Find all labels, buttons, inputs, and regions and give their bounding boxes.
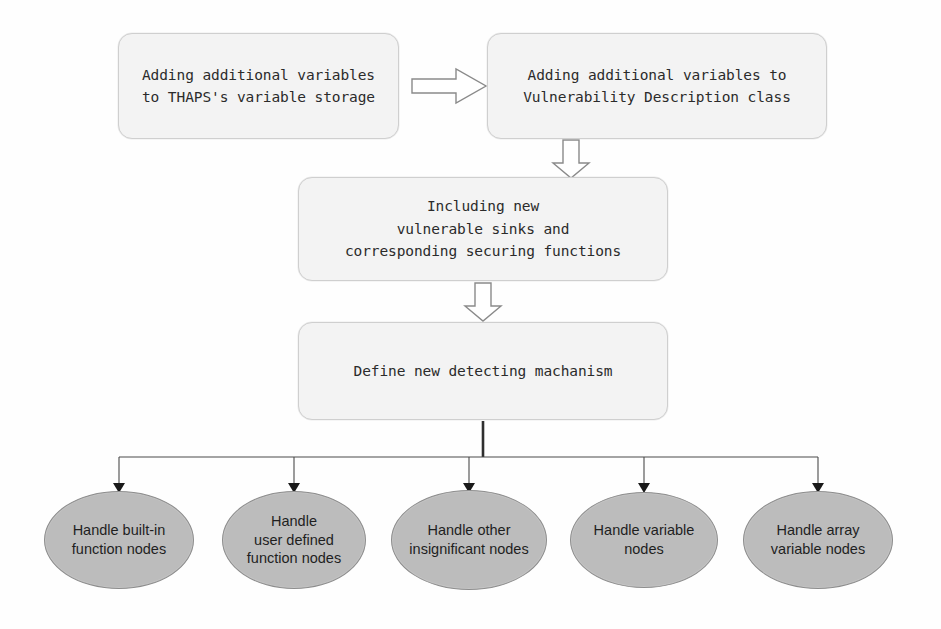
process-node-add-vars-vuln-desc[interactable]: Adding additional variables to Vulnerabi… bbox=[487, 33, 827, 139]
terminator-node-label: Handle built-in function nodes bbox=[72, 521, 166, 558]
terminator-node-handle-array-variable-nodes[interactable]: Handle array variable nodes bbox=[743, 491, 893, 589]
terminator-node-handle-variable-nodes[interactable]: Handle variable nodes bbox=[570, 492, 718, 588]
arrow-box2-to-box3-icon bbox=[553, 140, 589, 178]
process-node-label: Adding additional variables to Vulnerabi… bbox=[523, 64, 791, 109]
process-node-define-mechanism[interactable]: Define new detecting machanism bbox=[298, 322, 668, 420]
process-node-including-new-sinks[interactable]: Including new vulnerable sinks and corre… bbox=[298, 177, 668, 281]
terminator-node-handle-user-defined-function-nodes[interactable]: Handle user defined function nodes bbox=[222, 491, 366, 589]
arrow-box3-to-box4-icon bbox=[465, 283, 501, 321]
process-node-label: Adding additional variables to THAPS's v… bbox=[142, 64, 375, 109]
terminator-node-label: Handle array variable nodes bbox=[771, 521, 865, 558]
terminator-node-handle-builtin-function-nodes[interactable]: Handle built-in function nodes bbox=[44, 491, 194, 589]
terminator-node-label: Handle user defined function nodes bbox=[247, 512, 341, 568]
terminator-node-handle-other-insignificant-nodes[interactable]: Handle other insignificant nodes bbox=[391, 490, 547, 590]
arrow-box1-to-box2-icon bbox=[412, 69, 486, 103]
process-node-label: Including new vulnerable sinks and corre… bbox=[345, 195, 621, 262]
process-node-label: Define new detecting machanism bbox=[354, 360, 613, 382]
terminator-node-label: Handle other insignificant nodes bbox=[409, 521, 528, 558]
flowchart-canvas: Adding additional variables to THAPS's v… bbox=[0, 0, 941, 629]
process-node-add-vars-thaps[interactable]: Adding additional variables to THAPS's v… bbox=[118, 33, 399, 139]
terminator-node-label: Handle variable nodes bbox=[594, 521, 695, 558]
